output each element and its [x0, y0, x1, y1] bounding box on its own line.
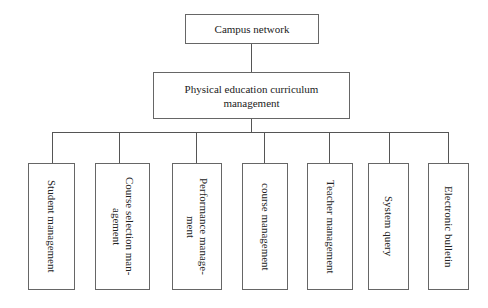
connector-child-5	[329, 132, 330, 163]
root-node-label: Campus network	[215, 23, 290, 35]
child-node-label: Performance manage- ment	[184, 178, 210, 275]
level2-node-label: Physical education curriculum management	[185, 82, 319, 110]
root-node-box: Campus network	[185, 14, 319, 44]
child-node-course-selection-management: Course selection man- agement	[95, 163, 150, 290]
connector-level2-to-bus	[251, 119, 252, 133]
child-node-course-management: course management	[242, 163, 288, 290]
hierarchy-diagram: Campus network Physical education curric…	[0, 0, 488, 308]
child-node-performance-management: Performance manage- ment	[172, 163, 222, 290]
child-node-label: Electronic bulletin	[442, 186, 455, 268]
child-node-system-query: System query	[368, 163, 409, 290]
connector-root-to-level2	[251, 44, 252, 72]
connector-child-1	[52, 132, 53, 163]
child-node-label: Course selection man- agement	[110, 177, 136, 275]
child-node-teacher-management: Teacher management	[307, 163, 353, 290]
child-node-label: Teacher management	[324, 180, 337, 274]
connector-child-2	[119, 132, 120, 163]
child-node-student-management: Student management	[28, 163, 75, 290]
connector-child-6	[389, 132, 390, 163]
child-node-label: System query	[382, 196, 395, 256]
child-node-electronic-bulletin: Electronic bulletin	[428, 163, 469, 290]
connector-child-7	[448, 132, 449, 163]
connector-child-3	[196, 132, 197, 163]
connector-child-4	[264, 132, 265, 163]
child-node-label: course management	[259, 183, 272, 271]
level2-node-box: Physical education curriculum management	[153, 72, 350, 119]
child-node-label: Student management	[45, 180, 58, 273]
